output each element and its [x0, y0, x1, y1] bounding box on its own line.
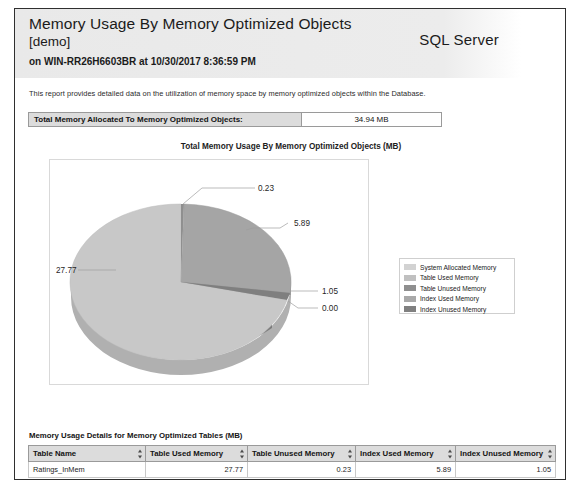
pie-chart-svg: 0.23 5.89 1.05 0.00 27.77: [50, 160, 368, 384]
legend-item: Index Unused Memory: [404, 304, 514, 314]
legend-swatch-table-used-memory: [404, 275, 416, 281]
legend-item: Table Used Memory: [404, 273, 514, 283]
legend-label: Table Used Memory: [420, 274, 479, 281]
sort-toggle-icon[interactable]: [239, 449, 244, 458]
cell-index-unused: 1.05: [456, 462, 556, 478]
total-allocated-bar: Total Memory Allocated To Memory Optimiz…: [28, 112, 442, 127]
pie-label-2777: 27.77: [56, 266, 77, 275]
legend-item: Index Used Memory: [404, 294, 514, 304]
column-header-table-used-memory[interactable]: Table Used Memory: [146, 446, 248, 462]
report-description: This report provides detailed data on th…: [29, 89, 426, 98]
total-allocated-value: 34.94 MB: [301, 113, 441, 126]
total-allocated-label: Total Memory Allocated To Memory Optimiz…: [29, 113, 301, 126]
pie-chart-plot-area: 0.23 5.89 1.05 0.00 27.77: [49, 159, 369, 385]
server-timestamp: on WIN-RR26H6603BR at 10/30/2017 8:36:59…: [29, 56, 256, 67]
column-header-label: Table Used Memory: [150, 449, 223, 458]
legend-swatch-index-used-memory: [404, 296, 416, 302]
chart-legend: System Allocated Memory Table Used Memor…: [399, 258, 515, 314]
column-header-label: Index Unused Memory: [460, 449, 543, 458]
pie-label-105: 1.05: [322, 287, 338, 296]
sql-server-brand-label: SQL Server: [419, 31, 499, 48]
cell-table-unused: 0.23: [248, 462, 356, 478]
sort-toggle-icon[interactable]: [547, 449, 552, 458]
sort-toggle-icon[interactable]: [347, 449, 352, 458]
database-name: [demo]: [29, 34, 70, 49]
chart-title: Total Memory Usage By Memory Optimized O…: [15, 142, 566, 151]
pie-slices: [70, 204, 291, 360]
column-header-index-unused-memory[interactable]: Index Unused Memory: [456, 446, 556, 462]
pie-label-023: 0.23: [258, 184, 274, 193]
legend-swatch-table-unused-memory: [404, 285, 416, 291]
report-frame: Memory Usage By Memory Optimized Objects…: [14, 8, 566, 480]
cell-table-name: Ratings_InMem: [29, 462, 146, 478]
column-header-label: Table Unused Memory: [252, 449, 335, 458]
page-title: Memory Usage By Memory Optimized Objects: [29, 15, 352, 33]
legend-item: Table Unused Memory: [404, 283, 514, 293]
column-header-table-name[interactable]: Table Name: [29, 446, 146, 462]
details-table: Table Name Table Used Memory Table Unuse…: [28, 445, 556, 478]
legend-label: Index Unused Memory: [420, 306, 486, 313]
sort-toggle-icon[interactable]: [137, 449, 142, 458]
column-header-index-used-memory[interactable]: Index Used Memory: [356, 446, 456, 462]
details-table-caption: Memory Usage Details for Memory Optimize…: [29, 431, 242, 440]
legend-label: Index Used Memory: [420, 295, 479, 302]
table-row: Ratings_InMem 27.77 0.23 5.89 1.05: [29, 462, 556, 478]
legend-item: System Allocated Memory: [404, 262, 514, 272]
cell-index-used: 5.89: [356, 462, 456, 478]
legend-label: Table Unused Memory: [420, 285, 486, 292]
pie-label-000: 0.00: [322, 304, 338, 313]
cell-table-used: 27.77: [146, 462, 248, 478]
column-header-label: Table Name: [33, 449, 76, 458]
legend-swatch-index-unused-memory: [404, 306, 416, 312]
legend-label: System Allocated Memory: [420, 264, 496, 271]
sort-toggle-icon[interactable]: [447, 449, 452, 458]
table-header-row: Table Name Table Used Memory Table Unuse…: [29, 446, 556, 462]
column-header-table-unused-memory[interactable]: Table Unused Memory: [248, 446, 356, 462]
clipped-text-above-report: a report by a separate page in the setti…: [0, 0, 583, 7]
legend-swatch-system-allocated-memory: [404, 264, 416, 270]
column-header-label: Index Used Memory: [360, 449, 434, 458]
pie-label-589: 5.89: [294, 219, 310, 228]
report-header: Memory Usage By Memory Optimized Objects…: [15, 9, 565, 79]
